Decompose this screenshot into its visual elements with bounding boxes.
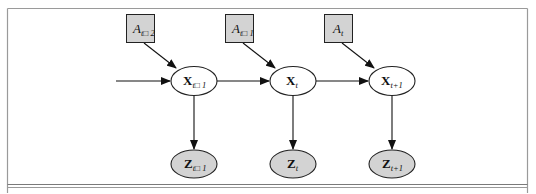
edge-a-tm1-to-x-t <box>243 43 275 68</box>
state-node-x-tp1: Xt+1 <box>369 67 415 96</box>
figure-frame <box>8 9 528 194</box>
observation-node-z-tm1: Zt□ 1 <box>171 150 217 178</box>
action-node-a-tm2: At□ 2 <box>127 15 156 43</box>
observation-node-z-t: Zt <box>270 150 316 178</box>
edge-a-t-to-x-tp1 <box>342 43 374 68</box>
action-node-a-t: At <box>325 15 353 43</box>
observation-node-z-tp1: Zt+1 <box>369 150 415 178</box>
edges <box>116 43 392 149</box>
action-node-a-tm1: At□ 1 <box>226 15 254 43</box>
state-node-x-t: Xt <box>270 67 316 96</box>
dbn-diagram: At□ 2 At□ 1 At Xt□ 1 Xt Xt+1 Zt□ 1 <box>0 0 536 193</box>
state-node-x-tm1: Xt□ 1 <box>171 67 217 96</box>
dbn-figure: At□ 2 At□ 1 At Xt□ 1 Xt Xt+1 Zt□ 1 <box>0 0 536 193</box>
edge-a-tm2-to-x-tm1 <box>144 43 176 68</box>
